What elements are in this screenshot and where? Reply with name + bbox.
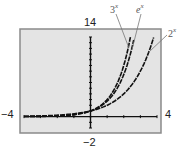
y-max-label: 14: [84, 17, 96, 28]
legend-3x-exp: x: [115, 2, 118, 10]
x-min-label: −4: [1, 109, 14, 120]
legend-2x-exp: x: [173, 26, 176, 34]
legend-2x: 2x: [168, 27, 176, 39]
legend-3x: 3x: [110, 3, 118, 15]
legend-ex: ex: [136, 3, 144, 15]
y-min-label: −2: [83, 137, 96, 148]
x-max-label: 4: [165, 109, 171, 120]
legend-ex-exp: x: [140, 2, 143, 10]
